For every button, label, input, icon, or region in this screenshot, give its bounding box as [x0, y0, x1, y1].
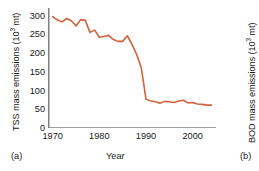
y-axis-title-left-exponent: 3 — [9, 28, 16, 31]
x-axis-tick-label: 1970 — [42, 131, 62, 141]
x-axis-tick-labels: 1970198019902000 — [48, 131, 216, 145]
x-axis-tick-label: 2000 — [182, 131, 202, 141]
figure-panel-a: TSS mass emissions (103 mt) BOD mass emi… — [0, 0, 259, 171]
y-axis-tick-label: 150 — [30, 67, 45, 77]
y-axis-tick-labels: 050100150200250300 — [17, 8, 45, 128]
x-axis-tick-label: 1980 — [89, 131, 109, 141]
y-axis-tick-label: 100 — [30, 86, 45, 96]
x-axis-title: Year — [106, 151, 125, 161]
y-axis-tick-label: 250 — [30, 29, 45, 39]
y-axis-title-right: BOD mass emissions (103 mt) — [247, 23, 257, 143]
data-series-line — [53, 17, 212, 106]
panel-label-b: (b) — [240, 151, 251, 161]
y-axis-tick-label: 50 — [35, 104, 45, 114]
y-axis-title-right-exponent: 3 — [245, 38, 252, 41]
y-axis-title-right-units: mt) — [247, 23, 257, 38]
line-chart-svg — [48, 8, 216, 128]
y-axis-tick-label: 200 — [30, 48, 45, 58]
axes-group — [48, 8, 216, 128]
x-axis-tick-label: 1990 — [136, 131, 156, 141]
plot-area — [48, 8, 216, 128]
panel-label-a: (a) — [11, 151, 22, 161]
y-axis-tick-label: 300 — [30, 11, 45, 21]
y-axis-title-right-text: BOD mass emissions (10 — [247, 42, 257, 143]
